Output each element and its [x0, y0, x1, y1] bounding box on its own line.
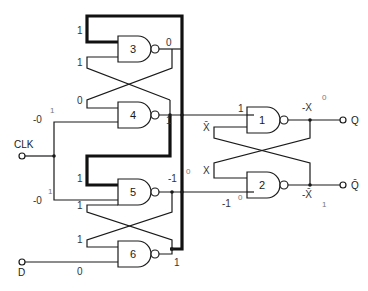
g6-out-level: 1 [174, 257, 180, 268]
gate-2-label: 2 [259, 179, 265, 191]
g6-in-d-level: 0 [77, 266, 83, 277]
gate-3-label: 3 [130, 43, 136, 55]
g1-in-bottom-level: X̄ [203, 121, 210, 133]
d-terminal[interactable] [19, 259, 25, 265]
nand-gate-3: 3 [118, 36, 159, 62]
g4-in-top-level: 0 [77, 95, 83, 106]
g4-clk-level: -0 [33, 114, 42, 125]
g6-in-top-level: 1 [77, 234, 83, 245]
g2-out-arrow-level: 1 [322, 200, 327, 209]
g5-in-top-level: 1 [77, 173, 83, 184]
g5-clk-arrow-level: 1 [48, 187, 53, 196]
nand-gate-6: 6 [118, 241, 159, 267]
g5-out-level: -1 [168, 173, 177, 184]
nand-gate-4: 4 [118, 102, 159, 128]
nand-gate-5: 5 [118, 179, 159, 205]
q-bar-terminal[interactable] [340, 182, 346, 188]
g2-in-top-level: X [203, 165, 210, 176]
gate-5-label: 5 [130, 186, 136, 198]
q-label: Q [351, 115, 359, 126]
g4-out-level: 1 [166, 115, 172, 126]
nand-gate-1: 1 [247, 107, 288, 133]
g5-clk-level: -0 [33, 195, 42, 206]
q-bar-label: Q̄ [351, 179, 359, 191]
clk-label: CLK [14, 139, 34, 150]
g4-clk-arrow-level: 1 [50, 106, 55, 115]
gate-1-label: 1 [259, 114, 265, 126]
g3-out-level: 0 [166, 37, 172, 48]
gate-4-label: 4 [130, 109, 136, 121]
g1-out-arrow-level: 0 [322, 93, 327, 102]
g1-in-top-level: 1 [238, 103, 244, 114]
g3-in-bottom-level: 1 [77, 57, 83, 68]
g2-in-bottom-level: -1 [222, 198, 231, 209]
g2-in-bottom-arrow-level: 0 [238, 193, 243, 202]
d-flip-flop-diagram: 3 4 CLK 5 6 D [0, 0, 368, 291]
g5-out-arrow-level: 0 [186, 167, 191, 176]
g5-in-bottom-level: 1 [77, 200, 83, 211]
gate-6-label: 6 [130, 248, 136, 260]
d-label: D [18, 267, 25, 278]
clk-terminal[interactable] [19, 153, 25, 159]
g3-in-top-level: 1 [77, 25, 83, 36]
nand-gate-2: 2 [247, 172, 288, 198]
q-terminal[interactable] [340, 117, 346, 123]
g1-out-level: -X [302, 102, 312, 113]
g2-out-level: -X̄ [302, 188, 312, 200]
